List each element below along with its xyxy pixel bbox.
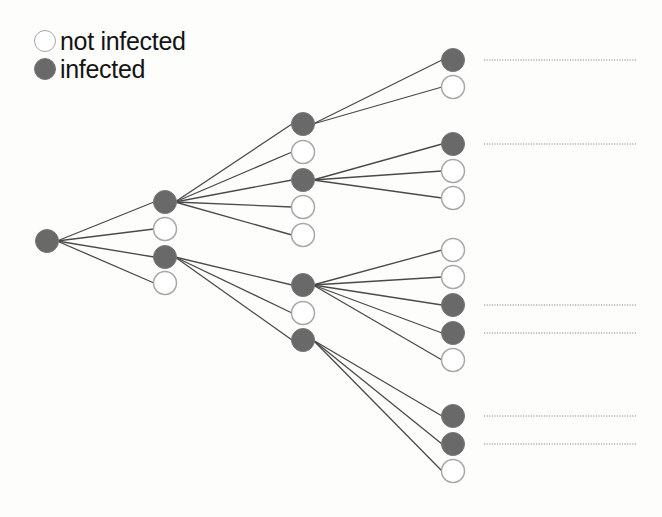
not-infected-node xyxy=(292,196,315,219)
edge-a3-a3c xyxy=(313,180,442,198)
edge-c3-c3b xyxy=(313,340,442,444)
edge-c3-c3c xyxy=(313,340,442,471)
edge-c-c2 xyxy=(175,257,292,313)
infected-node xyxy=(154,246,177,269)
legend-item-infected: infected xyxy=(34,55,186,83)
edge-c-c1 xyxy=(175,257,292,285)
not-infected-node xyxy=(442,160,465,183)
legend: not infected infected xyxy=(34,27,186,83)
infected-node xyxy=(292,113,315,136)
not-infected-node xyxy=(154,272,177,295)
not-infected-node xyxy=(442,266,465,289)
dotted-continuation-lines xyxy=(484,60,637,444)
edge-root-c xyxy=(57,241,154,257)
filled-circle-icon xyxy=(34,58,56,80)
edge-a-a5 xyxy=(175,202,292,235)
infected-node xyxy=(154,191,177,214)
tree-nodes xyxy=(36,49,465,483)
edge-c1-c1c xyxy=(313,285,442,305)
legend-item-not-infected: not infected xyxy=(34,27,186,55)
not-infected-node xyxy=(442,460,465,483)
infected-node xyxy=(442,405,465,428)
infected-node xyxy=(36,230,59,253)
not-infected-node xyxy=(442,349,465,372)
edge-c1-c1e xyxy=(313,285,442,360)
edge-a-a4 xyxy=(175,202,292,207)
edge-a3-a3b xyxy=(313,171,442,180)
legend-label: not infected xyxy=(60,27,186,56)
not-infected-node xyxy=(292,141,315,164)
not-infected-node xyxy=(442,187,465,210)
edge-a-a1 xyxy=(175,124,292,202)
not-infected-node xyxy=(154,218,177,241)
legend-label: infected xyxy=(60,55,145,84)
edge-c1-c1a xyxy=(313,250,442,285)
infected-node xyxy=(442,433,465,456)
edge-root-d xyxy=(57,241,154,283)
not-infected-node xyxy=(442,76,465,99)
infected-node xyxy=(442,322,465,345)
edge-a-a2 xyxy=(175,152,292,202)
open-circle-icon xyxy=(34,30,56,52)
infected-node xyxy=(442,133,465,156)
edge-c-c3 xyxy=(175,257,292,340)
not-infected-node xyxy=(442,239,465,262)
infected-node xyxy=(292,169,315,192)
not-infected-node xyxy=(292,224,315,247)
tree-edges xyxy=(57,60,442,471)
edge-c1-c1b xyxy=(313,277,442,285)
edge-a3-a3a xyxy=(313,144,442,180)
infected-node xyxy=(442,294,465,317)
infected-node xyxy=(292,329,315,352)
infected-node xyxy=(442,49,465,72)
not-infected-node xyxy=(292,302,315,325)
infected-node xyxy=(292,274,315,297)
edge-c1-c1d xyxy=(313,285,442,333)
